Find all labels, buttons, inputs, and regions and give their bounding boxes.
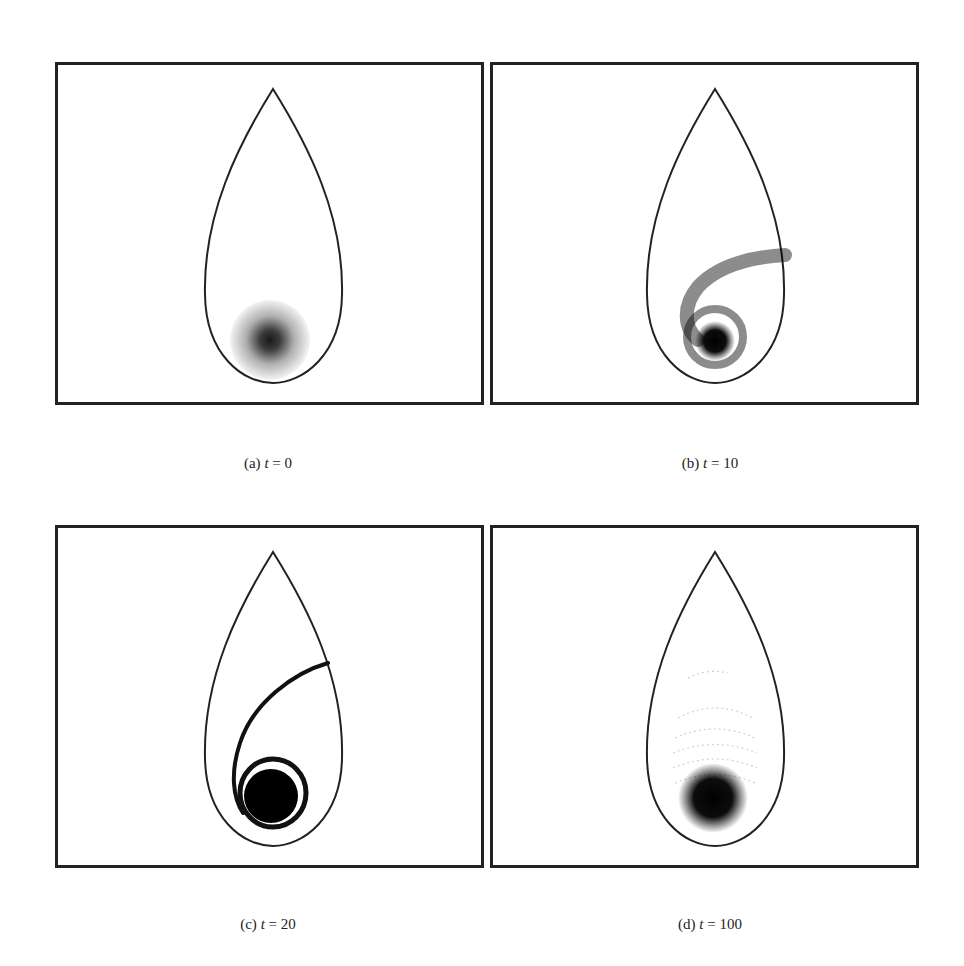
caption-a: (a) t = 0	[118, 455, 418, 472]
caption-d-label: (d)	[678, 916, 696, 932]
caption-d-eq: =	[703, 916, 719, 932]
panel-a-plot	[58, 65, 481, 402]
panel-c	[55, 525, 484, 868]
density-core	[678, 763, 748, 833]
caption-b: (b) t = 10	[560, 455, 860, 472]
caption-b-eq: =	[707, 455, 723, 471]
caption-d-value: 100	[719, 916, 742, 932]
panel-b-plot	[493, 65, 916, 402]
panel-d-plot	[493, 528, 916, 865]
panel-c-plot	[58, 528, 481, 865]
density-core	[695, 321, 735, 361]
caption-c: (c) t = 20	[118, 916, 418, 933]
caption-b-value: 10	[723, 455, 738, 471]
caption-a-label: (a)	[244, 455, 261, 471]
caption-b-label: (b)	[682, 455, 700, 471]
caption-c-value: 20	[281, 916, 296, 932]
caption-c-eq: =	[265, 916, 281, 932]
panel-d	[490, 525, 919, 868]
panel-b	[490, 62, 919, 405]
density-core	[244, 769, 298, 823]
density-blob	[230, 300, 310, 380]
caption-a-eq: =	[269, 455, 285, 471]
caption-c-label: (c)	[240, 916, 257, 932]
caption-d: (d) t = 100	[560, 916, 860, 933]
panel-a	[55, 62, 484, 405]
caption-a-value: 0	[285, 455, 293, 471]
